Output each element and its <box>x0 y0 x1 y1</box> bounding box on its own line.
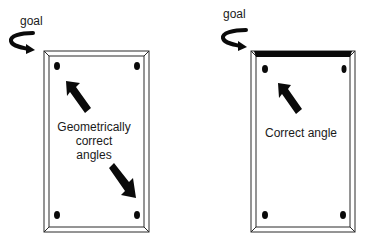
right-hole-top-right <box>342 65 347 73</box>
left-caption-line-3: angles <box>76 148 111 162</box>
right-arrow-up-left-icon <box>278 83 302 114</box>
left-hole-bottom-left <box>54 211 60 219</box>
right-hole-bottom-right <box>340 211 346 219</box>
right-goal-rotation-arrow-icon <box>223 30 247 51</box>
right-hole-top-left <box>262 65 268 73</box>
left-arrow-up-left-icon <box>66 81 91 113</box>
left-panel: goal Geometrically correct <box>11 14 149 232</box>
right-panel: goal Correct angle <box>223 7 355 232</box>
right-goal-label: goal <box>223 7 246 21</box>
diagram-canvas: goal Geometrically correct <box>0 0 366 237</box>
right-hole-bottom-left <box>262 211 268 219</box>
left-goal-rotation-arrow-icon <box>11 33 35 54</box>
left-goal-label: goal <box>20 14 43 28</box>
left-caption-line-1: Geometrically <box>57 120 130 134</box>
left-caption-line-2: correct <box>76 134 113 148</box>
right-top-edge-highlight <box>254 51 352 57</box>
right-caption-line-1: Correct angle <box>265 126 337 140</box>
left-arrow-down-right-icon <box>109 163 136 198</box>
left-hole-top-left <box>54 62 60 70</box>
left-hole-top-right <box>134 62 140 70</box>
right-frame <box>251 51 355 232</box>
left-hole-bottom-right <box>134 211 140 219</box>
